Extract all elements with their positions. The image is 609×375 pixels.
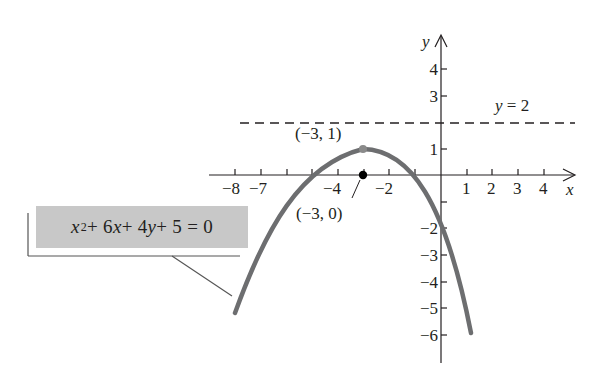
y-axis-label: y <box>420 32 430 51</box>
vertex-point <box>359 145 367 153</box>
focus-point <box>359 171 367 179</box>
y-tick-label: 1 <box>430 140 439 159</box>
y-tick-label: −4 <box>420 273 439 292</box>
vertex-label: (−3, 1) <box>295 124 341 143</box>
y-tick-label: −5 <box>420 299 438 318</box>
x-tick-label: 3 <box>513 179 522 198</box>
y-tick-label: 3 <box>430 87 439 106</box>
x-tick-label: 4 <box>539 179 548 198</box>
x-tick-label: −8 <box>222 179 240 198</box>
x-tick-labels: −8 −7 −4 −2 1 2 3 4 x <box>222 179 574 199</box>
equation-label: x2 + 6x + 4y + 5 = 0 <box>36 206 248 248</box>
y-tick-label: 4 <box>430 60 439 79</box>
y-tick-label: −3 <box>420 246 438 265</box>
y-tick-label: −2 <box>420 219 438 238</box>
y-tick-label: −6 <box>420 326 438 345</box>
x-tick-label: −4 <box>323 179 342 198</box>
x-tick-label: −2 <box>375 179 393 198</box>
directrix-label: y = 2 <box>493 96 529 115</box>
x-axis-label: x <box>565 180 574 199</box>
focus-leader-line <box>352 180 360 198</box>
parabola-figure: −8 −7 −4 −2 1 2 3 4 x 4 3 1 −2 −3 −4 −5 … <box>0 0 609 375</box>
x-tick-label: 2 <box>487 179 496 198</box>
x-tick-label: −7 <box>249 179 268 198</box>
x-tick-label: 1 <box>462 179 471 198</box>
focus-label: (−3, 0) <box>296 204 342 223</box>
